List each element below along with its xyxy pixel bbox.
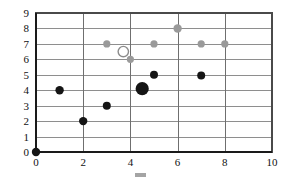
x-tick-label-0: 0: [33, 156, 39, 168]
open-marker-points: [118, 46, 128, 56]
data-point: [127, 56, 134, 63]
y-axis-tick-labels: 0123456789: [24, 7, 30, 158]
y-tick-label-4: 4: [24, 84, 30, 96]
y-tick-label-7: 7: [24, 38, 30, 50]
y-tick-label-3: 3: [24, 100, 30, 112]
x-tick-label-6: 6: [175, 156, 181, 168]
data-point: [173, 24, 181, 32]
data-point: [118, 46, 128, 56]
caption-legend-swatch: [135, 173, 146, 177]
figure-caption-strip: [0, 168, 284, 179]
x-tick-label-10: 10: [267, 156, 279, 168]
data-point: [150, 40, 157, 47]
data-point: [79, 117, 87, 125]
y-tick-label-2: 2: [24, 115, 30, 127]
y-tick-label-9: 9: [24, 7, 30, 19]
x-tick-label-4: 4: [128, 156, 134, 168]
y-tick-label-5: 5: [24, 69, 30, 81]
data-point: [136, 82, 149, 95]
y-tick-label-1: 1: [24, 131, 30, 143]
data-point: [197, 72, 205, 80]
y-tick-label-8: 8: [24, 22, 30, 34]
data-point: [32, 148, 40, 156]
figure-caption-text: [135, 169, 149, 179]
scatter-plot: 0123456789 0246810: [0, 0, 284, 179]
data-point: [103, 40, 110, 47]
x-tick-label-8: 8: [222, 156, 228, 168]
y-tick-label-6: 6: [24, 53, 30, 65]
data-point: [55, 86, 63, 94]
y-tick-label-0: 0: [24, 146, 30, 158]
x-axis-tick-labels: 0246810: [33, 156, 278, 168]
plot-background: [36, 13, 272, 152]
data-point: [198, 40, 205, 47]
data-point: [150, 71, 158, 79]
figure-container: 0123456789 0246810: [0, 0, 284, 179]
data-point: [221, 40, 228, 47]
data-point: [103, 102, 111, 110]
x-tick-label-2: 2: [80, 156, 86, 168]
